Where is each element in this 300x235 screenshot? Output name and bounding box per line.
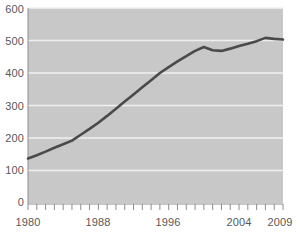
line-chart: 600 500 400 300 200 100 0 1980 1988 1996… [0, 0, 300, 235]
chart-canvas [0, 0, 300, 235]
x-tick-label-1988: 1988 [78, 216, 118, 228]
y-tick-label-500: 500 [0, 35, 24, 47]
y-tick-label-0: 0 [0, 196, 24, 208]
x-tick-marks [28, 204, 283, 210]
y-tick-label-300: 300 [0, 100, 24, 112]
x-tick-label-1980: 1980 [8, 216, 48, 228]
y-tick-label-600: 600 [0, 3, 24, 15]
x-tick-label-2004: 2004 [219, 216, 259, 228]
y-tick-label-100: 100 [0, 164, 24, 176]
x-tick-label-1996: 1996 [148, 216, 188, 228]
x-tick-label-2009: 2009 [260, 216, 300, 228]
y-tick-label-400: 400 [0, 67, 24, 79]
y-tick-label-200: 200 [0, 132, 24, 144]
